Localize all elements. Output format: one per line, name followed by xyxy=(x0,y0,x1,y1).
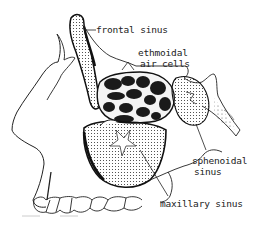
sinus-diagram: frontal sinus ethmoidal air cells spheno… xyxy=(0,0,267,226)
label-frontal-sinus: frontal sinus xyxy=(96,25,168,35)
label-sphenoidal-sinus-line2: sinus xyxy=(194,167,222,177)
face-profile-outline xyxy=(12,34,60,207)
label-sphenoidal-sinus-line1: sphenoidal xyxy=(192,156,247,166)
ethmoidal-air-cells xyxy=(97,72,174,123)
label-ethmoidal-air-cells-line2: air cells xyxy=(140,59,190,69)
maxillary-sinus xyxy=(84,121,166,187)
label-maxillary-sinus: maxillary sinus xyxy=(160,199,243,209)
teeth-row xyxy=(34,197,142,214)
label-ethmoidal-air-cells-line1: ethmoidal xyxy=(138,48,188,58)
sphenoidal-sinus xyxy=(172,77,209,126)
